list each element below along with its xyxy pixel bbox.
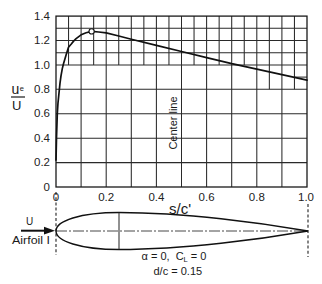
y-tick-0.2: 0.2 xyxy=(34,156,50,168)
y-tick-0.8: 0.8 xyxy=(34,83,50,95)
y-label-numerator: u xyxy=(12,81,20,97)
y-label-denominator: U xyxy=(12,98,21,113)
y-tick-1.4: 1.4 xyxy=(34,10,51,22)
airfoil-diagram: U Airfoil I α = 0, CL = 0 d/c = 0.15 xyxy=(12,192,308,277)
conditions-line-1: α = 0, CL = 0 xyxy=(142,250,207,264)
x-tick-0.4: 0.4 xyxy=(148,191,165,203)
flow-arrow-icon xyxy=(44,227,55,235)
x-tick-1.0: 1.0 xyxy=(298,191,314,203)
x-tick-0.8: 0.8 xyxy=(249,191,265,203)
y-tick-1.2: 1.2 xyxy=(34,34,50,46)
center-line-label: Center line xyxy=(167,96,179,149)
plot-grid xyxy=(56,16,307,187)
cl-symbol: C xyxy=(176,250,184,262)
cl-value: = 0 xyxy=(188,250,207,262)
x-tick-0.6: 0.6 xyxy=(199,191,215,203)
y-label-subscript: e xyxy=(20,84,24,93)
y-tick-0.6: 0.6 xyxy=(34,107,50,119)
y-tick-0.4: 0.4 xyxy=(34,132,51,144)
y-tick-labels: 0 0.2 0.4 0.6 0.8 1.0 1.2 1.4 xyxy=(34,10,51,193)
x-tick-0.2: 0.2 xyxy=(98,191,114,203)
velocity-distribution-figure: Center line 0 0.2 0.4 0.6 0.8 1.0 1.2 1.… xyxy=(0,0,322,284)
flow-velocity-label: U xyxy=(26,216,33,227)
y-tick-1.0: 1.0 xyxy=(34,59,50,71)
airfoil-name-label: Airfoil I xyxy=(12,235,50,246)
thickness-ratio-label: d/c = 0.15 xyxy=(154,265,203,277)
y-tick-0: 0 xyxy=(44,181,50,193)
alpha-condition: α = 0, xyxy=(142,250,170,262)
peak-marker-open-circle xyxy=(89,29,94,34)
y-axis-label: u e U xyxy=(11,81,25,113)
